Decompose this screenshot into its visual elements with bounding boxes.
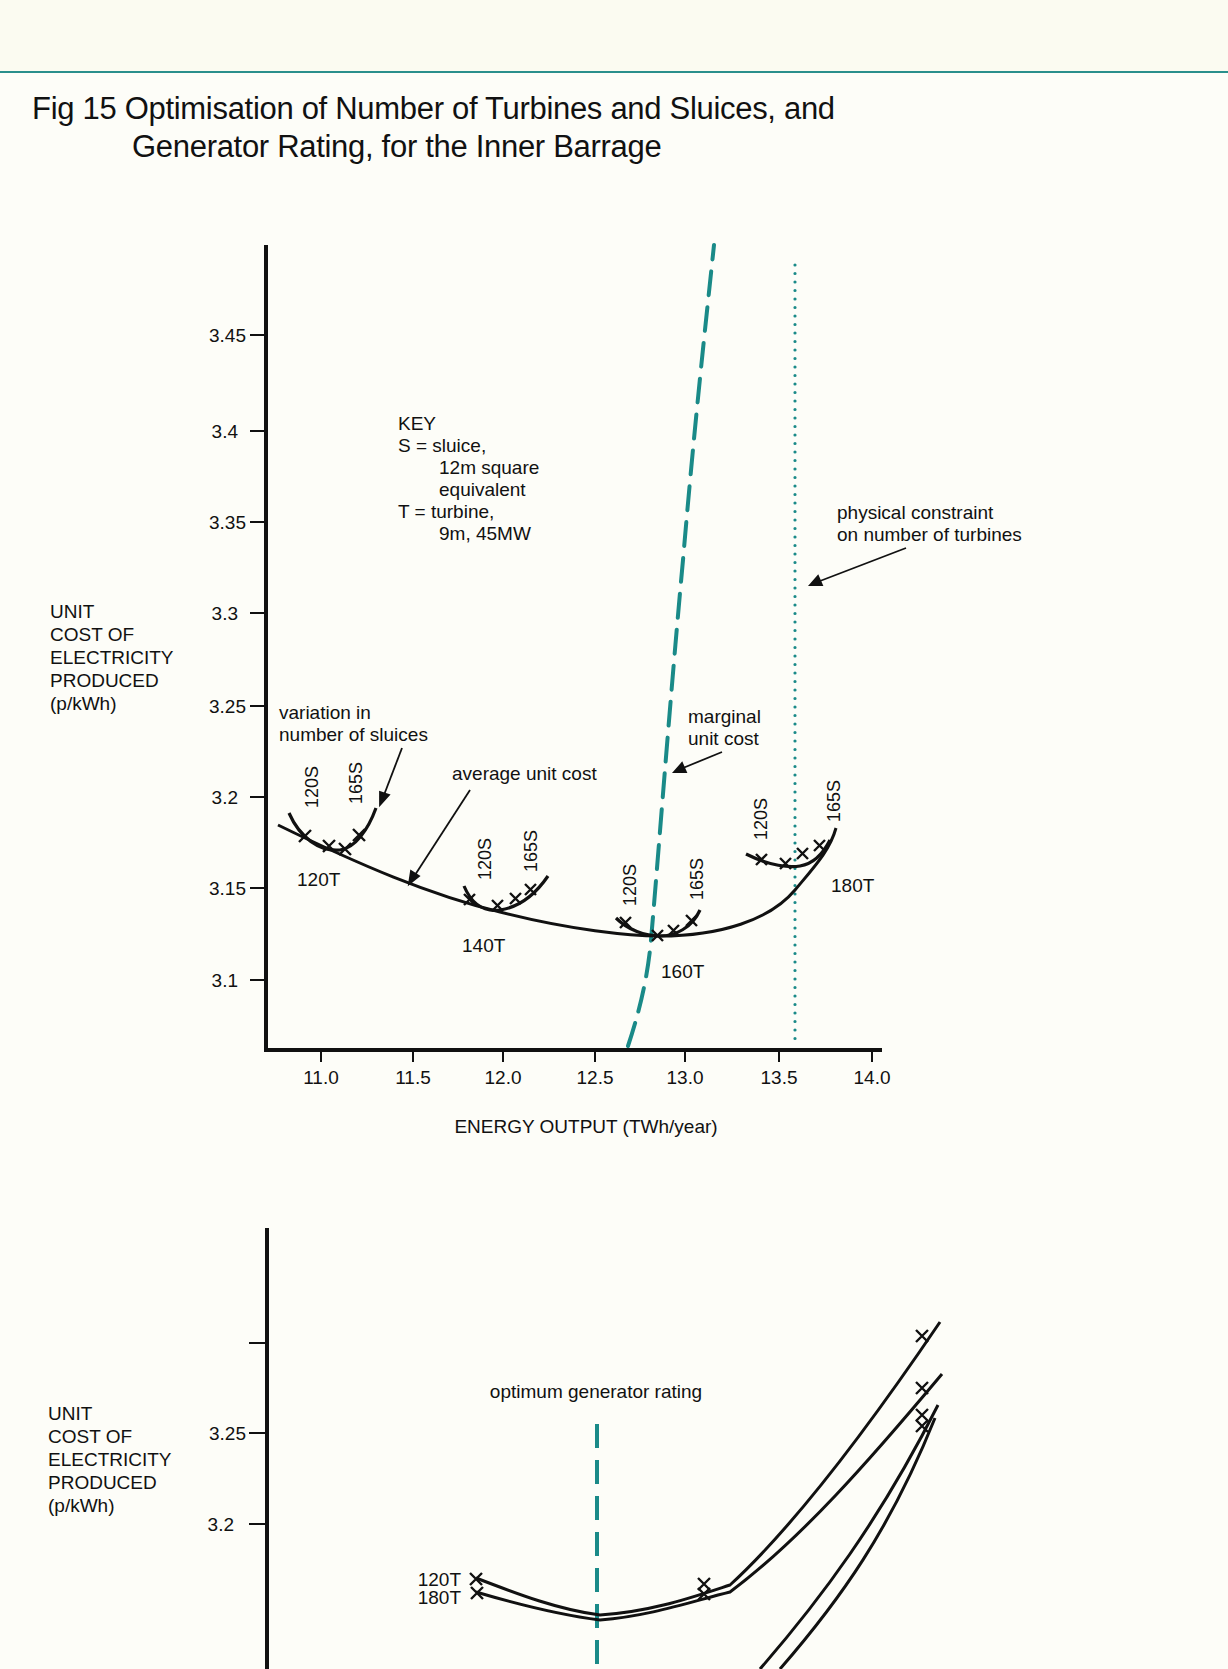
arrow-head-icon [810,576,822,585]
chart1-y-ticks [250,335,266,980]
arrow-head-icon [409,871,419,884]
charts-canvas: 3.45 3.4 3.35 3.3 3.25 3.2 3.15 3.1 11.0… [0,0,1228,1669]
chart2: 3.25 3.2 optimum generator rating 120T 1… [208,1228,942,1669]
y-tick-label: 3.25 [209,696,246,717]
chart2-markers [470,1330,928,1600]
label-165S: 165S [687,858,707,900]
chart2-curve-3 [760,1405,938,1669]
annotation-physical: physical constraint [837,502,994,523]
average-unit-cost-curve [278,825,836,936]
x-tick-label: 14.0 [854,1067,891,1088]
chart2-y-ticks [249,1343,267,1524]
y-tick-label: 3.1 [212,970,238,991]
chart2-curve-2 [476,1374,942,1620]
y-tick-label: 3.4 [212,421,239,442]
label-165S: 165S [521,830,541,872]
label-160T: 160T [661,961,705,982]
label-120S: 120S [751,798,771,840]
label-165S: 165S [824,780,844,822]
key-turbine-detail: 9m, 45MW [439,523,531,544]
annotation-marginal: unit cost [688,728,759,749]
x-tick-label: 11.5 [395,1067,431,1088]
annotation-sluices: variation in [279,702,371,723]
cluster-140T-markers [464,884,536,911]
chart1-turbine-labels: 120T 140T 160T 180T [297,869,875,982]
key-heading: KEY [398,413,436,434]
chart2-curve-1 [476,1322,940,1615]
chart1: 3.45 3.4 3.35 3.3 3.25 3.2 3.15 3.1 11.0… [209,245,1022,1137]
annotation-physical: on number of turbines [837,524,1022,545]
label-120T: 120T [297,869,341,890]
x-tick-label: 12.5 [577,1067,614,1088]
y-tick-label: 3.2 [212,787,238,808]
label-180T: 180T [831,875,875,896]
y-tick-label: 3.3 [212,603,238,624]
chart1-key: KEY S = sluice, 12m square equivalent T … [398,413,539,544]
chart1-y-tick-labels: 3.45 3.4 3.35 3.3 3.25 3.2 3.15 3.1 [209,325,246,991]
chart1-annotations: variation in number of sluices average u… [279,502,1022,784]
arrow-head-icon [674,763,686,772]
y-tick-label: 3.2 [208,1514,234,1535]
label-120S: 120S [475,838,495,880]
label-165S: 165S [346,762,366,804]
key-sluice-detail: 12m square [439,457,539,478]
key-sluice: S = sluice, [398,435,486,456]
y-tick-label: 3.35 [209,512,246,533]
y-tick-label: 3.25 [209,1423,246,1444]
x-tick-label: 11.0 [303,1067,339,1088]
x-tick-label: 13.5 [761,1067,798,1088]
marginal-unit-cost-line [628,245,714,1046]
annotation-sluices: number of sluices [279,724,428,745]
label-120S: 120S [620,864,640,906]
x-tick-label: 13.0 [667,1067,704,1088]
arrow-head-icon [380,792,389,805]
x-tick-label: 12.0 [485,1067,522,1088]
chart1-arrows [380,548,906,884]
chart2-series-labels: 120T 180T [418,1569,462,1608]
annotation-optimum-generator: optimum generator rating [490,1381,702,1402]
label-180T: 180T [418,1587,462,1608]
y-tick-label: 3.15 [209,878,246,899]
label-120S: 120S [302,766,322,808]
chart1-x-tick-labels: 11.0 11.5 12.0 12.5 13.0 13.5 14.0 [303,1067,890,1088]
chart2-curves [476,1322,942,1669]
chart1-x-axis-label: ENERGY OUTPUT (TWh/year) [454,1116,717,1137]
y-tick-label: 3.45 [209,325,246,346]
label-140T: 140T [462,935,506,956]
annotation-marginal: marginal [688,706,761,727]
key-sluice-detail: equivalent [439,479,526,500]
annotation-average: average unit cost [452,763,597,784]
chart2-y-tick-labels: 3.25 3.2 [208,1423,246,1535]
key-turbine: T = turbine, [398,501,494,522]
